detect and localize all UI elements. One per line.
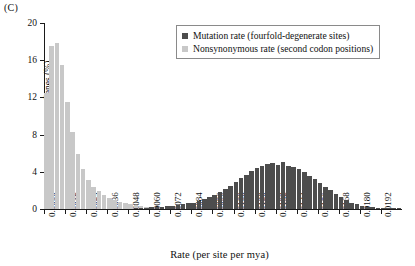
bar <box>144 208 149 209</box>
x-tick <box>297 210 298 214</box>
y-tick-label: 0 <box>32 204 37 214</box>
bar <box>197 201 202 209</box>
x-tick <box>255 210 256 214</box>
bar <box>386 208 391 209</box>
bar <box>55 43 60 209</box>
bar <box>344 200 349 209</box>
bar <box>112 200 117 209</box>
bar <box>291 167 296 209</box>
bar <box>328 190 333 209</box>
bar <box>91 187 96 209</box>
bar <box>297 169 302 209</box>
x-tick <box>234 210 235 214</box>
bar <box>234 182 239 209</box>
bar <box>181 204 186 209</box>
legend-item: Nonsynonymous rate (second codon positio… <box>182 42 373 55</box>
bar <box>218 192 223 209</box>
bar <box>391 208 396 209</box>
bar <box>334 194 339 209</box>
bar <box>376 208 381 209</box>
x-tick <box>360 210 361 214</box>
bar <box>260 166 265 209</box>
bar <box>176 205 181 209</box>
x-tick <box>191 210 192 214</box>
bar <box>318 183 323 209</box>
x-axis-title: Rate (per site per mya) <box>0 249 415 260</box>
bar <box>239 178 244 209</box>
bar <box>255 168 260 209</box>
bar <box>307 176 312 209</box>
x-tick-label: 0.0192 <box>384 192 393 217</box>
x-tick <box>212 210 213 214</box>
x-tick <box>149 210 150 214</box>
bar <box>86 180 91 209</box>
bar <box>107 198 112 209</box>
bar <box>118 202 123 209</box>
legend-label: Mutation rate (fourfold-degenerate sites… <box>193 30 349 41</box>
bar <box>44 93 49 209</box>
y-tick <box>40 23 44 24</box>
x-tick <box>276 210 277 214</box>
bar <box>186 203 191 209</box>
y-tick-label: 16 <box>28 55 38 65</box>
bar <box>134 208 139 209</box>
x-tick <box>65 210 66 214</box>
x-tick <box>318 210 319 214</box>
y-tick-label: 4 <box>32 167 37 177</box>
bar <box>249 171 254 209</box>
x-tick-label: 0.0180 <box>363 192 372 217</box>
y-tick-label: 8 <box>32 130 37 140</box>
bar <box>207 197 212 209</box>
bar <box>228 186 233 209</box>
bar <box>244 175 249 209</box>
bar <box>276 165 281 209</box>
bar <box>165 206 170 209</box>
x-tick <box>44 210 45 214</box>
x-tick-label: 0.0060 <box>153 192 162 217</box>
square-swatch-icon <box>182 46 188 52</box>
bar <box>139 208 144 209</box>
bar <box>360 206 365 209</box>
y-tick-label: 12 <box>28 92 38 102</box>
bar <box>149 207 154 209</box>
y-tick <box>40 60 44 61</box>
bar <box>270 163 275 210</box>
figure-panel-c: (C) Genes (%) 048121620 0.00000.00120.00… <box>0 0 415 266</box>
bar <box>313 179 318 209</box>
bar <box>323 187 328 209</box>
bar <box>60 65 65 209</box>
legend-label: Nonsynonymous rate (second codon positio… <box>193 43 373 54</box>
panel-label: (C) <box>4 2 18 14</box>
bar <box>123 203 128 209</box>
x-tick <box>339 210 340 214</box>
x-tick <box>107 210 108 214</box>
bar <box>160 207 165 209</box>
x-tick <box>381 210 382 214</box>
x-tick <box>128 210 129 214</box>
bar <box>339 197 344 209</box>
bar <box>128 204 133 209</box>
bar <box>65 102 70 209</box>
bar <box>265 164 270 209</box>
bar <box>381 208 386 209</box>
bar <box>76 154 81 209</box>
bar <box>223 189 228 209</box>
bar <box>286 166 291 209</box>
bar <box>370 207 375 209</box>
bar <box>49 46 54 209</box>
bar <box>212 195 217 209</box>
bar <box>81 169 86 209</box>
bar <box>365 207 370 209</box>
bar <box>281 162 286 209</box>
bar <box>70 132 75 209</box>
bar <box>155 207 160 209</box>
chart-legend: Mutation rate (fourfold-degenerate sites… <box>176 25 380 59</box>
y-tick-label: 20 <box>28 18 38 28</box>
bar <box>302 172 307 209</box>
bar <box>349 203 354 210</box>
x-tick <box>170 210 171 214</box>
legend-item: Mutation rate (fourfold-degenerate sites… <box>182 29 373 42</box>
bar <box>102 195 107 209</box>
bar <box>397 208 402 209</box>
bar <box>170 206 175 209</box>
